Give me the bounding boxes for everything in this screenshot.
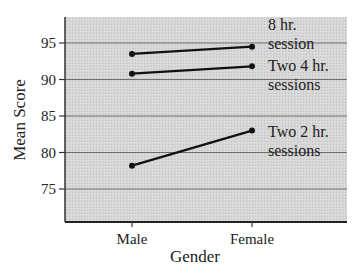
y-axis-title: Mean Score (10, 79, 29, 161)
data-point (129, 71, 135, 77)
data-point (249, 63, 255, 69)
data-point (129, 51, 135, 57)
data-point (249, 128, 255, 134)
x-axis-title: Gender (170, 247, 220, 266)
y-tick-label: 75 (41, 181, 56, 197)
y-tick-label: 95 (41, 35, 56, 51)
data-point (129, 163, 135, 169)
y-tick-label: 85 (41, 108, 56, 124)
y-tick-label: 80 (41, 145, 56, 161)
y-axis-ticks: 7580859095 (41, 35, 65, 197)
line-chart: 7580859095 MaleFemale 8 hr.sessionTwo 4 … (0, 0, 364, 276)
data-point (249, 44, 255, 50)
x-tick-label-male: Male (117, 231, 148, 247)
x-tick-label-female: Female (230, 231, 274, 247)
x-axis-ticks: MaleFemale (117, 222, 275, 247)
y-tick-label: 90 (41, 72, 56, 88)
